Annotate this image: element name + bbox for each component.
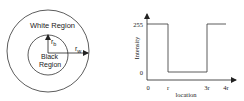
intensity-chart: 255 0 0 r 3r 4r location Intensity	[133, 14, 236, 98]
ytick-255: 255	[133, 21, 143, 28]
black-region-label-line1: Black	[41, 53, 59, 60]
x-axis-label: location	[176, 91, 198, 98]
ytick-0: 0	[140, 69, 143, 76]
figure: White Region Black Region rb rw 255 0 0 …	[0, 0, 244, 101]
xtick-4r: 4r	[223, 84, 229, 91]
concentric-regions-diagram: White Region Black Region rb rw	[7, 10, 89, 92]
xtick-r: r	[167, 84, 170, 91]
black-region-label-line2: Region	[39, 61, 61, 69]
xtick-0: 0	[146, 84, 149, 91]
white-region-label: White Region	[30, 21, 75, 30]
y-axis-label: Intensity	[133, 36, 140, 59]
rb-label: rb	[51, 38, 56, 47]
intensity-profile-line	[147, 24, 226, 72]
xtick-3r: 3r	[204, 84, 210, 91]
